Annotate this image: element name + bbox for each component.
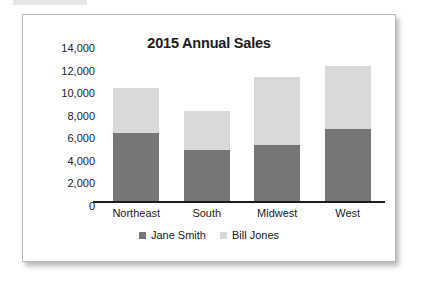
x-axis-tick-label: Midwest (237, 207, 317, 219)
x-axis-category-labels: NortheastSouthMidwestWest (101, 207, 383, 223)
x-axis-line (99, 201, 385, 203)
page-top-artifact (13, 0, 87, 5)
bar-segment[interactable] (254, 145, 300, 201)
bar-segment[interactable] (325, 129, 371, 201)
legend-label: Jane Smith (151, 229, 206, 241)
bar-group[interactable] (325, 66, 371, 201)
x-axis-tick-label: West (308, 207, 388, 219)
chart-legend: Jane SmithBill Jones (23, 229, 395, 241)
y-axis-tick-label: 12,000 (61, 66, 95, 77)
y-axis-tick-label: 8,000 (67, 111, 95, 122)
bar-segment[interactable] (325, 66, 371, 129)
bar-segment[interactable] (184, 111, 230, 151)
legend-swatch-icon (220, 232, 227, 239)
legend-label: Bill Jones (232, 229, 279, 241)
bars-container (101, 43, 383, 201)
legend-swatch-icon (139, 232, 146, 239)
legend-item[interactable]: Jane Smith (139, 229, 206, 241)
bar-segment[interactable] (254, 77, 300, 145)
y-axis-tick-label: 10,000 (61, 88, 95, 99)
bar-segment[interactable] (184, 150, 230, 201)
legend-item[interactable]: Bill Jones (220, 229, 279, 241)
x-axis-tick-label: Northeast (96, 207, 176, 219)
y-axis-tick-label: 2,000 (67, 178, 95, 189)
bar-group[interactable] (254, 77, 300, 201)
y-axis-zero-tick (93, 201, 100, 203)
bar-segment[interactable] (113, 133, 159, 201)
x-axis-tick-label: South (167, 207, 247, 219)
y-axis-tick-label: 14,000 (61, 43, 95, 54)
bar-group[interactable] (113, 88, 159, 201)
y-axis-tick-label: 6,000 (67, 133, 95, 144)
y-axis-tick-label: 4,000 (67, 156, 95, 167)
bar-segment[interactable] (113, 88, 159, 133)
y-axis-tick-labels: 14,00012,00010,0008,0006,0004,0002,0000 (33, 37, 95, 209)
bar-group[interactable] (184, 111, 230, 201)
chart-card: 2015 Annual Sales 14,00012,00010,0008,00… (22, 14, 396, 262)
